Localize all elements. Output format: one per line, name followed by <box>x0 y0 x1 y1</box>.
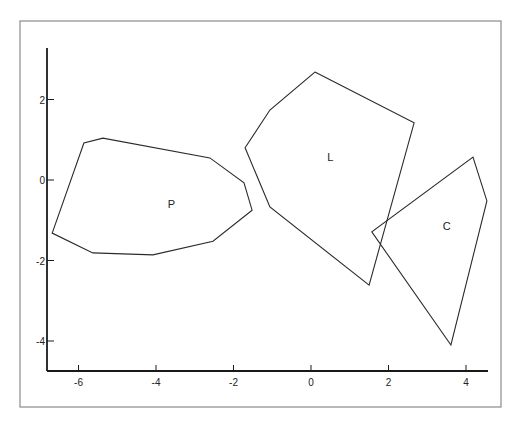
polygon-outline <box>52 138 252 255</box>
x-tick-label: -6 <box>74 377 83 388</box>
chart-frame <box>20 21 501 407</box>
y-tick-label: -2 <box>36 256 45 267</box>
polygon-outline <box>245 72 414 285</box>
polygon-label: L <box>327 151 333 163</box>
y-tick-label: 0 <box>39 175 45 186</box>
x-tick-label: -4 <box>152 377 161 388</box>
x-tick-label: 0 <box>308 377 314 388</box>
x-tick-label: 4 <box>463 377 469 388</box>
axes: -6-4-2024-4-202 <box>36 48 488 388</box>
polygon-label: C <box>443 220 451 232</box>
y-tick-label: 2 <box>39 95 45 106</box>
polygon-c: C <box>372 157 487 345</box>
polygon-p: P <box>52 138 252 255</box>
polygon-label: P <box>168 198 175 210</box>
x-tick-label: 2 <box>386 377 392 388</box>
x-tick-label: -2 <box>229 377 238 388</box>
chart: -6-4-2024-4-202 PLC <box>0 0 514 426</box>
polygons: PLC <box>52 72 487 345</box>
y-tick-label: -4 <box>36 336 45 347</box>
polygon-outline <box>372 157 487 345</box>
polygon-l: L <box>245 72 414 285</box>
